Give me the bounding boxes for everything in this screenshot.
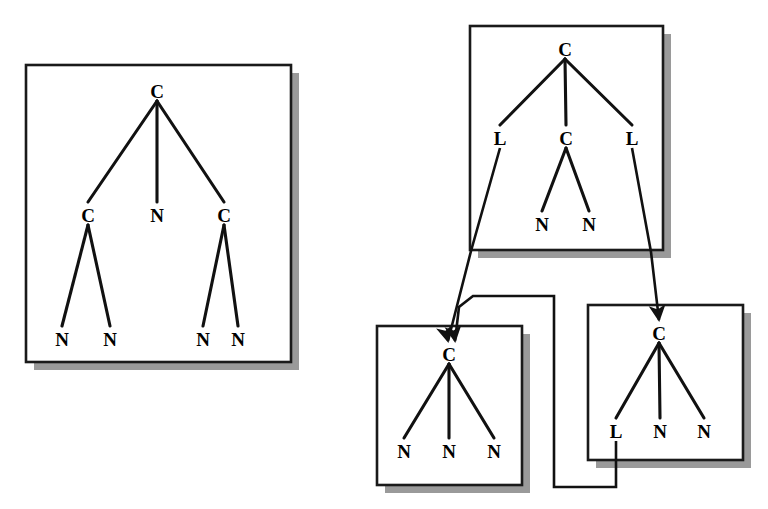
left-tree-panel-node-n-5: N: [103, 329, 117, 350]
bottom-right-tree-panel-node-l-1: L: [610, 421, 623, 442]
bottom-left-tree-panel-node-n-3: N: [487, 441, 501, 462]
term-graph-diagram: CCNCNNNNCLCLNNCNNNCLNN: [0, 0, 768, 509]
top-right-tree-panel-node-c-2: C: [559, 128, 573, 149]
top-right-tree-panel-node-l-1: L: [494, 128, 507, 149]
left-tree-panel-node-c-3: C: [217, 205, 231, 226]
diagram-canvas: CCNCNNNNCLCLNNCNNNCLNN: [0, 0, 768, 509]
bottom-right-tree-panel-edge-R0-R2: [659, 343, 660, 418]
bottom-right-tree-panel-node-c-0: C: [652, 323, 666, 344]
top-right-tree-panel-node-n-5: N: [582, 214, 596, 235]
bottom-left-tree-panel-node-c-0: C: [442, 344, 456, 365]
bottom-right-tree-panel-node-n-3: N: [697, 421, 711, 442]
left-tree-panel-node-c-1: C: [81, 205, 95, 226]
bottom-left-tree-panel-node-n-1: N: [397, 441, 411, 462]
left-tree-panel-node-c-0: C: [150, 81, 164, 102]
top-right-tree-panel-node-n-4: N: [535, 214, 549, 235]
left-tree-panel-node-n-7: N: [231, 329, 245, 350]
bottom-left-tree-panel-node-n-2: N: [442, 441, 456, 462]
bottom-right-tree-panel-node-n-2: N: [653, 421, 667, 442]
left-tree-panel-node-n-4: N: [55, 329, 69, 350]
left-tree-panel-node-n-2: N: [150, 205, 164, 226]
top-right-tree-panel-node-c-0: C: [558, 39, 572, 60]
top-right-tree-panel-node-l-3: L: [626, 128, 639, 149]
left-tree-panel-node-n-6: N: [196, 329, 210, 350]
top-right-tree-panel-edge-T0-T2: [565, 59, 566, 125]
